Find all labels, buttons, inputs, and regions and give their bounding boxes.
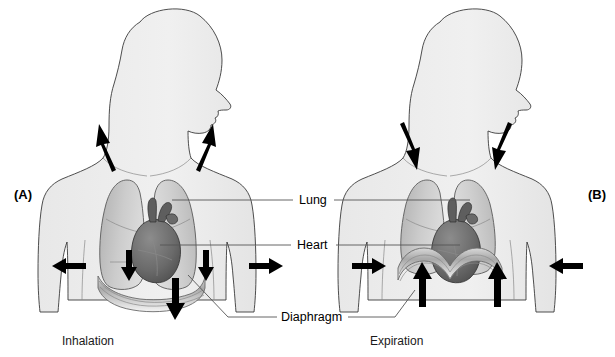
figure-canvas: (A) Inhalation [0, 0, 615, 357]
panel-letter-a: (A) [14, 187, 32, 202]
label-heart: Heart [297, 238, 328, 252]
panel-letter-b: (B) [588, 187, 606, 202]
panel-caption-b: Expiration [370, 334, 423, 348]
breathing-mechanics-figure: (A) Inhalation [0, 0, 615, 357]
label-lung: Lung [299, 193, 327, 207]
label-diaphragm: Diaphragm [281, 310, 342, 324]
panel-caption-a: Inhalation [62, 334, 114, 348]
